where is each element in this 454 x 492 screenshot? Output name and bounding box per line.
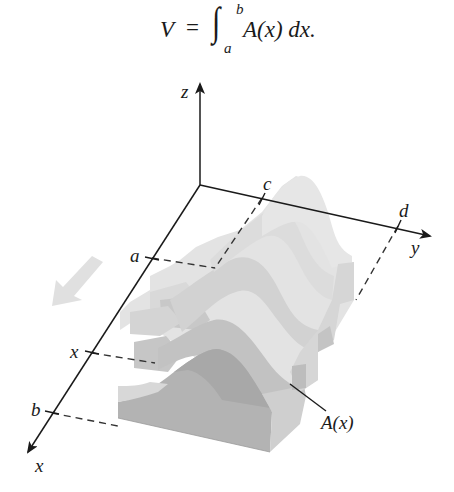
cross-section-label: A(x) xyxy=(321,413,354,432)
tick-label-c: c xyxy=(263,174,271,193)
volume-by-slicing-figure: V = ∫ b a A(x) dx. xyxy=(0,0,454,492)
tick-label-b: b xyxy=(31,400,41,419)
tick-d xyxy=(395,220,401,233)
motion-arrow-icon xyxy=(52,256,103,306)
tick-label-x: x xyxy=(70,342,78,361)
y-axis-label: y xyxy=(411,238,419,257)
b-projection-line xyxy=(52,413,118,426)
solid-body xyxy=(118,176,354,452)
tick-label-a: a xyxy=(130,246,140,265)
z-axis-label: z xyxy=(181,82,188,101)
tick-label-d: d xyxy=(399,201,409,220)
d-projection-line xyxy=(356,226,398,300)
x-axis-label: x xyxy=(35,456,43,475)
solid-diagram xyxy=(0,0,454,492)
